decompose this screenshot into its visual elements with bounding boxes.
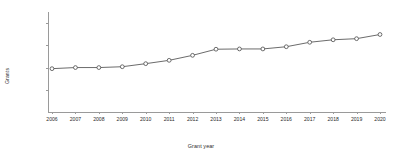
data-point-marker	[331, 38, 335, 42]
y-axis-title: Grants	[2, 48, 12, 104]
x-tick-label: 2015	[257, 116, 268, 122]
x-tick-mark	[193, 112, 194, 114]
x-tick-mark	[380, 112, 381, 114]
data-point-marker	[167, 58, 171, 62]
x-tick-label: 2019	[351, 116, 362, 122]
data-point-marker	[378, 33, 382, 37]
x-tick-mark	[286, 112, 287, 114]
x-tick-mark	[263, 112, 264, 114]
x-axis-title: Grant year	[0, 143, 402, 149]
line-chart: Grants 400,000800,0001,200,0001,600,000 …	[0, 0, 402, 154]
x-tick-label: 2006	[46, 116, 57, 122]
x-tick-label: 2014	[234, 116, 245, 122]
x-tick-label: 2016	[281, 116, 292, 122]
data-point-marker	[120, 65, 124, 69]
x-tick-label: 2013	[210, 116, 221, 122]
series-line	[52, 35, 380, 69]
data-point-marker	[355, 37, 359, 41]
x-tick-label: 2007	[70, 116, 81, 122]
plot-area: 400,000800,0001,200,0001,600,000 2006200…	[48, 12, 386, 112]
x-tick-mark	[52, 112, 53, 114]
data-point-marker	[97, 66, 101, 70]
x-tick-mark	[169, 112, 170, 114]
x-axis-title-text: Grant year	[188, 143, 214, 149]
x-tick-mark	[310, 112, 311, 114]
data-point-marker	[214, 47, 218, 51]
data-series-grants	[48, 12, 386, 112]
x-tick-label: 2020	[374, 116, 385, 122]
x-tick-mark	[99, 112, 100, 114]
data-point-marker	[238, 47, 242, 51]
x-tick-label: 2010	[140, 116, 151, 122]
x-tick-mark	[146, 112, 147, 114]
x-tick-mark	[239, 112, 240, 114]
x-tick-mark	[333, 112, 334, 114]
data-point-marker	[144, 62, 148, 66]
data-point-marker	[50, 67, 54, 71]
x-tick-label: 2009	[117, 116, 128, 122]
y-axis-title-text: Grants	[4, 68, 10, 84]
x-tick-label: 2012	[187, 116, 198, 122]
x-tick-mark	[122, 112, 123, 114]
x-tick-label: 2018	[327, 116, 338, 122]
x-tick-label: 2017	[304, 116, 315, 122]
x-tick-label: 2008	[93, 116, 104, 122]
x-tick-mark	[216, 112, 217, 114]
x-tick-mark	[75, 112, 76, 114]
data-point-marker	[74, 66, 78, 70]
data-point-marker	[308, 40, 312, 44]
x-tick-label: 2011	[164, 116, 175, 122]
x-tick-mark	[357, 112, 358, 114]
data-point-marker	[284, 45, 288, 49]
data-point-marker	[261, 47, 265, 51]
data-point-marker	[191, 53, 195, 57]
